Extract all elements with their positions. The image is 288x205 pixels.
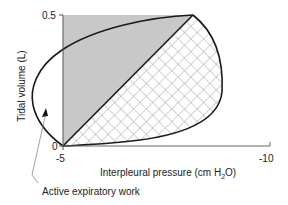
active-expiratory-work-label: Active expiratory work xyxy=(42,186,141,197)
x-tick-minus10: -10 xyxy=(259,153,274,164)
annotation-leader-line xyxy=(32,117,45,183)
y-tick-0.5: 0.5 xyxy=(42,10,56,21)
y-tick-0: 0 xyxy=(52,141,58,152)
pressure-volume-diagram: 0.5 0 -5 -10 Tidal volume (L) Interpleur… xyxy=(0,0,288,205)
annotation-arrowhead-icon xyxy=(42,108,48,117)
y-axis-label: Tidal volume (L) xyxy=(16,50,27,121)
x-tick-minus5: -5 xyxy=(56,153,65,164)
x-axis-label: Interpleural pressure (cm H2O) xyxy=(100,167,236,180)
